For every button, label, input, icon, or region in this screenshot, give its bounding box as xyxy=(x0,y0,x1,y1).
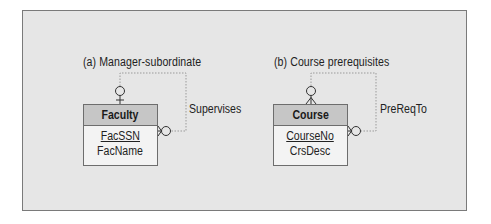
relationship-prereqto xyxy=(311,73,376,131)
cardinality-zero-or-many-icon xyxy=(348,126,361,136)
cardinality-zero-or-one-icon xyxy=(116,87,125,105)
cardinality-zero-or-many-icon xyxy=(158,126,171,136)
relationship-lines xyxy=(0,0,491,224)
cardinality-zero-or-many-icon xyxy=(306,87,316,105)
relationship-supervises xyxy=(120,73,186,131)
